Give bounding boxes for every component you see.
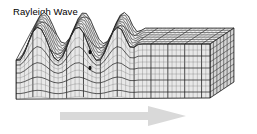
- rayleigh-wave-illustration: [0, 0, 257, 134]
- propagation-direction-arrow: [60, 106, 186, 126]
- rayleigh-wave-figure: Rayleigh Wave: [0, 0, 257, 134]
